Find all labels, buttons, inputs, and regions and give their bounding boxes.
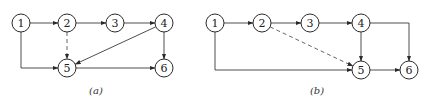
node-label: 5 — [358, 64, 365, 77]
node-b-5: 5 — [352, 61, 370, 79]
node-a-4: 4 — [155, 14, 173, 32]
node-label: 2 — [259, 17, 266, 30]
edge-b-2-to-5-dummy — [270, 27, 353, 66]
caption-a: (a) — [89, 85, 103, 96]
caption-b: (b) — [310, 85, 324, 96]
node-b-4: 4 — [352, 14, 370, 32]
panel-a: 123456(a) — [12, 14, 173, 96]
node-label: 4 — [161, 17, 168, 30]
node-a-3: 3 — [106, 14, 124, 32]
edge-b-4-to-6 — [370, 23, 409, 61]
edge-b-1-to-5 — [215, 32, 352, 70]
node-label: 6 — [161, 62, 168, 75]
node-a-5: 5 — [58, 59, 76, 77]
panel-b: 123456(b) — [206, 14, 418, 96]
edge-a-1-to-5 — [21, 32, 58, 68]
network-diagram: 123456(a) 123456(b) — [0, 0, 426, 102]
node-label: 1 — [212, 17, 219, 30]
node-b-3: 3 — [301, 14, 319, 32]
node-a-1: 1 — [12, 14, 30, 32]
node-label: 1 — [18, 17, 25, 30]
node-b-2: 2 — [253, 14, 271, 32]
node-b-1: 1 — [206, 14, 224, 32]
node-label: 5 — [64, 62, 71, 75]
node-label: 4 — [358, 17, 365, 30]
node-b-6: 6 — [400, 61, 418, 79]
node-label: 2 — [64, 17, 71, 30]
node-a-2: 2 — [58, 14, 76, 32]
node-label: 3 — [307, 17, 314, 30]
node-a-6: 6 — [155, 59, 173, 77]
node-label: 3 — [112, 17, 119, 30]
node-label: 6 — [406, 64, 413, 77]
